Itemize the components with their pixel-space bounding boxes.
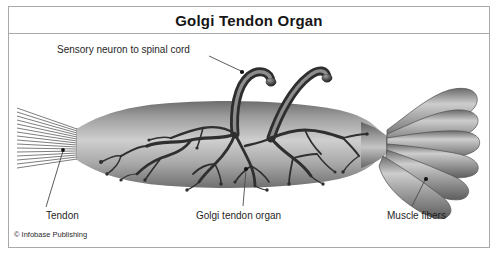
leader-sensory-neuron xyxy=(209,56,241,71)
dot-muscle-fibers xyxy=(424,177,428,181)
copyright-credit: © Infobase Publishing xyxy=(14,230,87,239)
label-sensory-neuron: Sensory neuron to spinal cord xyxy=(57,44,190,55)
dot-tendon xyxy=(61,148,65,152)
page-title: Golgi Tendon Organ xyxy=(175,12,322,29)
tendon-strands xyxy=(17,108,77,168)
figure-golgi-tendon-organ: Golgi Tendon Organ xyxy=(0,0,498,263)
title-bar: Golgi Tendon Organ xyxy=(9,7,489,34)
dot-golgi-tendon-organ xyxy=(244,167,248,171)
dot-sensory-neuron xyxy=(240,70,244,74)
label-tendon: Tendon xyxy=(46,210,79,221)
label-muscle-fibers: Muscle fibers xyxy=(387,210,446,221)
label-golgi-tendon-organ: Golgi tendon organ xyxy=(196,210,281,221)
muscle-fibers-group xyxy=(379,88,480,218)
